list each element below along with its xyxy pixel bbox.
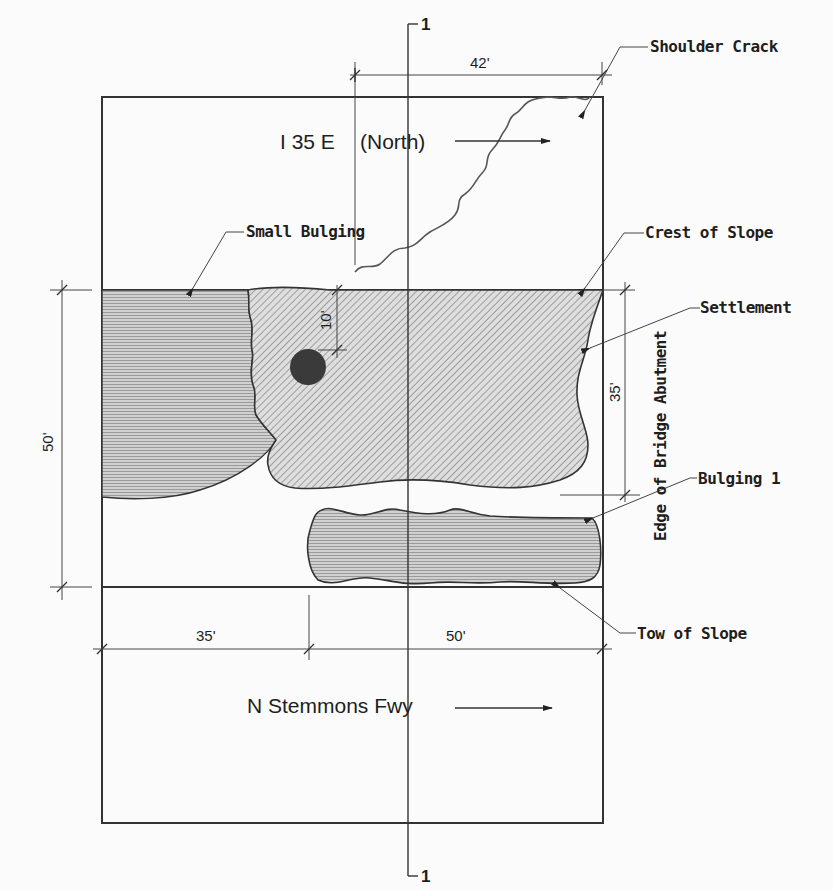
leader-tow xyxy=(560,588,636,633)
dim-bottom-left-label: 35' xyxy=(196,627,216,644)
dim-35-right-label: 35' xyxy=(606,382,623,402)
leader-bulging-1 xyxy=(593,478,697,518)
dim-42-label: 42' xyxy=(470,54,490,71)
label-tow-of-slope: Tow of Slope xyxy=(637,624,747,643)
dim-50-left-label: 50' xyxy=(39,432,56,452)
leader-settlement xyxy=(590,308,700,348)
site-plan-diagram: 1 1 42' I 35 E (North) N Stemmons Fwy Sh… xyxy=(0,0,833,891)
leader-crest xyxy=(585,233,644,288)
road-label-stemmons: N Stemmons Fwy xyxy=(247,694,413,717)
label-shoulder-crack: Shoulder Crack xyxy=(650,37,779,56)
label-edge-of-bridge-abutment: Edge of Bridge Abutment xyxy=(651,331,670,541)
small-bulging-area xyxy=(102,290,276,499)
label-bulging-1: Bulging 1 xyxy=(698,469,780,488)
label-small-bulging: Small Bulging xyxy=(246,222,365,241)
road-direction-north: (North) xyxy=(360,130,425,153)
settlement-area xyxy=(248,287,603,488)
section-label-top: 1 xyxy=(421,15,430,34)
dim-10-label: 10' xyxy=(317,310,334,330)
road-label-i35e: I 35 E xyxy=(280,130,335,153)
dim-bottom-right-label: 50' xyxy=(446,627,466,644)
leader-shoulder-crack xyxy=(585,47,648,110)
borehole-marker xyxy=(290,349,326,385)
shoulder-crack-line xyxy=(355,97,590,272)
leader-small-bulging xyxy=(193,232,244,288)
label-settlement: Settlement xyxy=(700,298,791,317)
label-crest-of-slope: Crest of Slope xyxy=(645,223,773,242)
section-label-bottom: 1 xyxy=(421,867,430,886)
bulging-1-area xyxy=(308,508,601,583)
